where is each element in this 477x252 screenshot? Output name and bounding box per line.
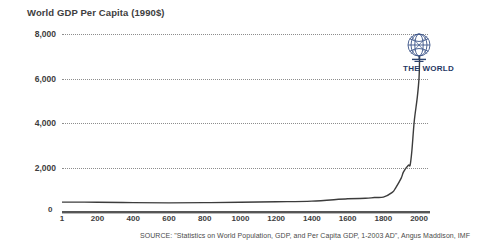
x-axis-tick-label: 1800 [374,214,392,223]
x-axis-tick-label: 600 [162,214,175,223]
globe-icon [404,32,434,64]
source-note: SOURCE: "Statistics on World Population,… [0,232,470,239]
y-axis-tick-label: 2,000 [12,163,56,173]
y-axis-tick-label: 6,000 [12,74,56,84]
x-axis-tick-label: 200 [91,214,104,223]
x-axis-tick-label: 1200 [267,214,285,223]
gdp-curve [62,34,428,212]
x-axis-tick-label: 1600 [339,214,357,223]
x-axis-tick-label: 2000 [410,214,428,223]
y-axis-labels: 8,0006,0004,0002,000 [10,34,56,212]
x-axis-labels: 1200400600800100012001400160018002000 [62,214,430,228]
x-axis-tick-label: 1000 [232,214,250,223]
world-logo: THE WORLD [400,32,472,76]
world-logo-label: THE WORLD [403,64,454,73]
x-axis-tick-label: 400 [127,214,140,223]
y-axis-tick-label: 4,000 [12,118,56,128]
x-axis-tick-label: 1 [60,214,64,223]
x-axis-tick-label: 800 [198,214,211,223]
chart-container: World GDP Per Capita (1990$) 8,0006,0004… [0,0,477,252]
chart-title: World GDP Per Capita (1990$) [27,7,165,18]
x-axis-tick-label: 1400 [303,214,321,223]
y-axis-zero-label: 0 [48,205,52,214]
y-axis-tick-label: 8,000 [12,29,56,39]
